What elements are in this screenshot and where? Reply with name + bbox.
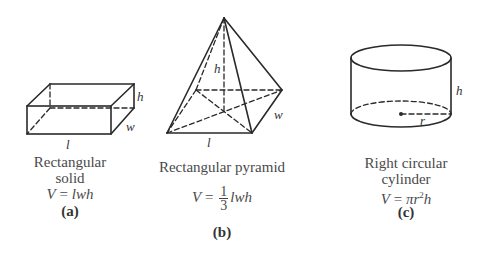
cylinder-title-line2: cylinder (346, 171, 466, 187)
one-third-fraction: 13 (219, 185, 228, 212)
cylinder-height-label: h (456, 84, 463, 97)
figure-tag-a: (a) (10, 203, 130, 219)
rectangular-solid-title-line1: Rectangular (10, 154, 130, 170)
rectangular-solid-title-line2: solid (10, 170, 130, 186)
figure-tag-c: (c) (346, 204, 466, 220)
rectangular-pyramid-title: Rectangular pyramid (152, 159, 292, 175)
cylinder-title-line1: Right circular (346, 155, 466, 171)
figure-tag-b: (b) (152, 224, 292, 240)
cylinder-radius-label: r (420, 114, 425, 127)
rectangular-pyramid-formula: V = 13lwh (152, 183, 292, 212)
pyramid-height-label: h (214, 62, 221, 75)
rectangular-solid-formula: V = lwh (10, 186, 130, 202)
pyramid-length-label: l (207, 136, 211, 149)
cylinder-center-point (399, 112, 403, 116)
rectangular-solid-drawing (27, 84, 134, 134)
rectangular-pyramid-drawing (167, 18, 282, 133)
box-width-label: w (126, 120, 135, 133)
box-length-label: l (66, 138, 70, 151)
pyramid-width-label: w (274, 108, 283, 121)
box-height-label: h (137, 90, 144, 103)
